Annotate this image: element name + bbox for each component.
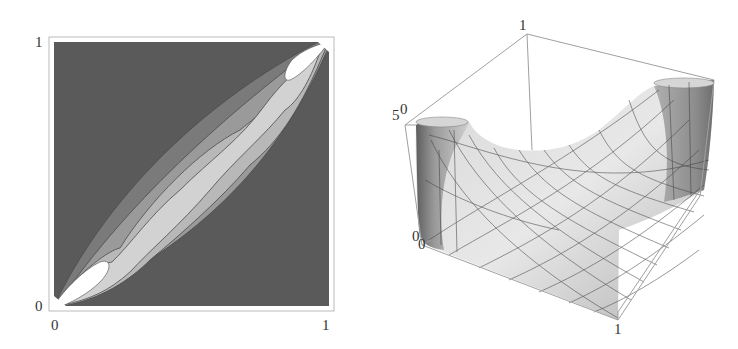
z-tick-min-b: 0 [418,237,426,252]
surface-plot: 1 5 0 0 0 1 [369,0,738,349]
axis-tick-bottom: 1 [614,322,622,337]
z-tick-max-b: 0 [400,102,408,117]
x-tick-right: 1 [322,318,330,333]
contour-plot-canvas [0,0,369,349]
z-tick-max-a: 5 [392,108,400,123]
contour-plot: 1 0 0 1 [0,0,369,349]
y-tick-top: 1 [35,35,43,50]
x-tick-left: 0 [51,318,59,333]
y-tick-bottom: 0 [35,299,43,314]
surface-cap-left [416,117,468,127]
surface-cap-right [654,78,714,88]
surface-plot-canvas [369,0,738,349]
axis-tick-top: 1 [519,18,527,33]
